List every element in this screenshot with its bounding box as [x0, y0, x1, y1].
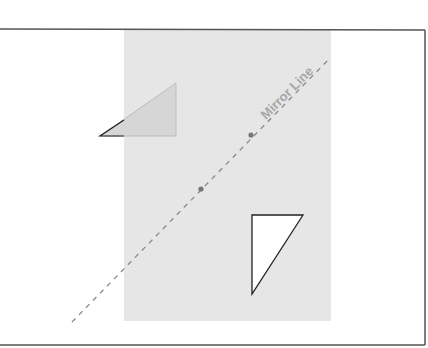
mirror-point-2	[198, 186, 203, 191]
mirror-diagram: Mirror Line	[0, 0, 428, 348]
frame-top	[0, 29, 425, 30]
mirror-point-1	[248, 132, 253, 137]
